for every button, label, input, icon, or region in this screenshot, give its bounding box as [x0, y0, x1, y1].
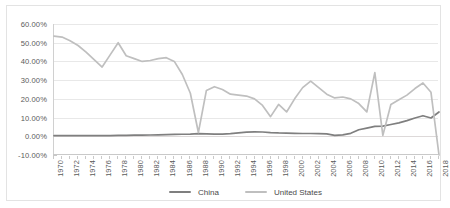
- legend-label: China: [198, 188, 219, 197]
- x-tick-label: 2016: [425, 160, 434, 177]
- x-tick-mark: [342, 156, 343, 159]
- x-tick-mark: [93, 156, 94, 159]
- x-tick-mark: [382, 156, 383, 159]
- x-tick-label: 1996: [265, 160, 274, 177]
- x-tick-mark: [366, 156, 367, 159]
- x-axis-line: [53, 154, 438, 155]
- chart-legend: ChinaUnited States: [53, 185, 438, 199]
- x-tick-label: 1986: [185, 160, 194, 177]
- x-tick-mark: [117, 156, 118, 159]
- x-tick-mark: [221, 156, 222, 159]
- x-tick-label: 1992: [233, 160, 242, 177]
- x-tick-label: 2004: [329, 160, 338, 177]
- x-tick-label: 1974: [88, 160, 97, 177]
- x-tick-mark: [286, 156, 287, 159]
- plot-area: [53, 24, 438, 155]
- x-tick-mark: [181, 156, 182, 159]
- x-tick-mark: [430, 156, 431, 159]
- y-tick-label: 0.00%: [25, 132, 47, 141]
- x-tick-label: 1988: [201, 160, 210, 177]
- x-tick-mark: [246, 156, 247, 159]
- x-tick-mark: [302, 156, 303, 159]
- x-tick-label: 1998: [281, 160, 290, 177]
- x-tick-label: 2002: [313, 160, 322, 177]
- x-tick-mark: [61, 156, 62, 159]
- x-tick-mark: [326, 156, 327, 159]
- legend-label: United States: [274, 188, 322, 197]
- x-tick-mark: [438, 156, 439, 159]
- x-tick-mark: [254, 156, 255, 159]
- chart-frame: 60.00%50.00%40.00%30.00%20.00%10.00%0.00…: [6, 5, 441, 201]
- y-tick-label: 40.00%: [21, 57, 47, 66]
- x-tick-mark: [141, 156, 142, 159]
- x-tick-label: 1990: [217, 160, 226, 177]
- x-tick-mark: [149, 156, 150, 159]
- x-tick-label: 1980: [136, 160, 145, 177]
- x-tick-mark: [414, 156, 415, 159]
- x-tick-label: 2006: [345, 160, 354, 177]
- y-tick-label: -10.00%: [18, 151, 47, 160]
- x-tick-mark: [334, 156, 335, 159]
- legend-entry[interactable]: China: [169, 188, 219, 197]
- x-tick-mark: [101, 156, 102, 159]
- x-tick-label: 2014: [409, 160, 418, 177]
- x-tick-mark: [278, 156, 279, 159]
- x-tick-label: 1984: [168, 160, 177, 177]
- legend-entry[interactable]: United States: [245, 188, 322, 197]
- x-tick-mark: [213, 156, 214, 159]
- x-tick-mark: [270, 156, 271, 159]
- x-tick-mark: [197, 156, 198, 159]
- x-tick-label: 1976: [104, 160, 113, 177]
- x-tick-mark: [422, 156, 423, 159]
- x-tick-mark: [318, 156, 319, 159]
- y-tick-label: 60.00%: [21, 20, 47, 29]
- x-axis: 1970197219741976197819801982198419861988…: [53, 156, 438, 184]
- x-tick-mark: [406, 156, 407, 159]
- x-tick-mark: [229, 156, 230, 159]
- y-tick-label: 20.00%: [21, 94, 47, 103]
- x-tick-mark: [53, 156, 54, 159]
- x-tick-label: 1970: [56, 160, 65, 177]
- x-tick-mark: [237, 156, 238, 159]
- y-tick-label: 30.00%: [21, 76, 47, 85]
- x-tick-label: 2000: [297, 160, 306, 177]
- x-tick-label: 1994: [249, 160, 258, 177]
- x-tick-mark: [350, 156, 351, 159]
- x-tick-mark: [205, 156, 206, 159]
- x-tick-mark: [109, 156, 110, 159]
- x-tick-mark: [157, 156, 158, 159]
- x-tick-label: 2010: [377, 160, 386, 177]
- series-line-united-states: [54, 36, 439, 155]
- x-tick-mark: [374, 156, 375, 159]
- x-tick-label: 1972: [72, 160, 81, 177]
- series-lines: [54, 24, 439, 155]
- x-tick-label: 1982: [152, 160, 161, 177]
- x-tick-label: 2018: [441, 160, 450, 177]
- x-tick-mark: [398, 156, 399, 159]
- y-tick-label: 10.00%: [21, 113, 47, 122]
- x-tick-mark: [310, 156, 311, 159]
- x-tick-mark: [390, 156, 391, 159]
- y-tick-label: 50.00%: [21, 38, 47, 47]
- x-tick-mark: [77, 156, 78, 159]
- y-axis: 60.00%50.00%40.00%30.00%20.00%10.00%0.00…: [7, 24, 51, 155]
- x-tick-mark: [165, 156, 166, 159]
- x-tick-mark: [294, 156, 295, 159]
- x-tick-label: 2008: [361, 160, 370, 177]
- x-tick-mark: [189, 156, 190, 159]
- legend-swatch-icon: [169, 191, 191, 193]
- x-tick-mark: [173, 156, 174, 159]
- x-tick-label: 1978: [120, 160, 129, 177]
- x-tick-mark: [69, 156, 70, 159]
- x-tick-mark: [262, 156, 263, 159]
- x-tick-mark: [125, 156, 126, 159]
- x-tick-label: 2012: [393, 160, 402, 177]
- x-tick-mark: [358, 156, 359, 159]
- x-tick-mark: [85, 156, 86, 159]
- x-tick-mark: [133, 156, 134, 159]
- legend-swatch-icon: [245, 191, 267, 193]
